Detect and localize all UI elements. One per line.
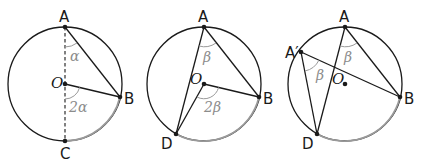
label-d: D — [302, 135, 314, 153]
angle-label-beta: β — [202, 49, 211, 65]
angle-arc-alpha — [65, 43, 77, 47]
label-c: C — [60, 145, 70, 163]
point-o — [63, 82, 68, 87]
radius-od — [176, 84, 204, 134]
label-a-prime: A′ — [285, 44, 299, 62]
angle-label-beta-a: β — [343, 49, 352, 65]
arc-bd — [317, 97, 400, 141]
label-b: B — [263, 90, 273, 108]
angle-label-2beta: 2β — [203, 99, 221, 115]
label-o: O — [332, 70, 344, 88]
point-d — [315, 132, 320, 137]
point-b — [257, 95, 262, 100]
label-d: D — [161, 135, 173, 153]
angle-label-2alpha: 2α — [68, 99, 88, 115]
chord-ab — [345, 27, 400, 97]
angle-arc-beta — [199, 43, 216, 47]
label-b: B — [404, 90, 414, 108]
panel-3: A A′ O B D β β — [285, 8, 414, 153]
label-a: A — [59, 8, 70, 26]
point-b — [118, 95, 123, 100]
angle-arc-beta-a — [340, 43, 357, 47]
label-o: O — [190, 70, 202, 88]
panel-1: A O B C α 2α — [8, 8, 134, 163]
angle-arc-2beta — [197, 87, 219, 98]
angle-arc-2alpha — [65, 87, 80, 99]
point-c — [63, 139, 68, 144]
panel-2: A O B D β 2β — [147, 8, 273, 153]
label-a: A — [339, 8, 350, 26]
point-a-prime — [299, 50, 304, 55]
label-a: A — [198, 8, 209, 26]
point-b — [398, 95, 403, 100]
chord-a-prime-d — [301, 52, 317, 134]
inscribed-angle-diagram: A O B C α 2α A O B D β 2β — [0, 0, 423, 163]
point-d — [174, 132, 179, 137]
point-o — [202, 82, 207, 87]
label-o: O — [51, 74, 63, 92]
label-b: B — [124, 90, 134, 108]
angle-label-alpha: α — [70, 48, 80, 64]
angle-label-beta-a-prime: β — [315, 67, 324, 83]
